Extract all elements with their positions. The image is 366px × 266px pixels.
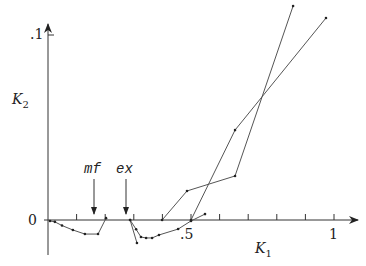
data-point	[292, 5, 295, 8]
data-point	[105, 217, 108, 220]
data-point	[325, 17, 328, 20]
data-series	[49, 5, 328, 245]
data-point	[186, 190, 189, 193]
data-point	[61, 224, 64, 227]
x-axis-label-sub: 1	[265, 248, 271, 259]
annotation-ex: ex	[116, 161, 133, 177]
data-point	[140, 236, 143, 239]
data-point	[136, 242, 139, 245]
data-point	[234, 129, 237, 132]
data-point	[158, 234, 161, 237]
series-line-curve-3	[130, 214, 205, 238]
y-axis-label-main: K	[12, 91, 22, 107]
data-point	[145, 237, 148, 240]
y-axis-label-sub: 2	[22, 99, 28, 110]
ex-arrowhead-icon	[123, 207, 129, 215]
x-tick-label-one: 1	[329, 226, 338, 242]
x-tick-label-half: .5	[180, 226, 193, 242]
series-line-curve-5	[191, 18, 326, 220]
mf-arrowhead-icon	[91, 207, 97, 215]
data-point	[190, 219, 193, 222]
y-tick-label-top: .1	[30, 26, 43, 42]
data-point	[129, 219, 132, 222]
annotation-mf: mf	[84, 161, 101, 177]
data-point	[135, 228, 138, 231]
series-line-curve-2	[130, 220, 137, 243]
data-point	[84, 233, 87, 236]
data-point	[72, 229, 75, 232]
y-axis-label: K2	[12, 91, 29, 110]
data-point	[204, 213, 207, 216]
x-axis-label: K1	[255, 240, 272, 259]
series-line-curve-4	[162, 6, 293, 220]
data-point	[54, 221, 57, 224]
data-point	[161, 219, 164, 222]
data-point	[234, 175, 237, 178]
data-point	[49, 220, 52, 223]
x-axis-label-main: K	[255, 240, 265, 256]
series-line-curve-1	[50, 218, 106, 234]
chart: .1 0 .5 1 K1 K2 mf ex	[0, 0, 366, 266]
data-point	[97, 233, 100, 236]
data-point	[151, 237, 154, 240]
y-tick-label-zero: 0	[28, 212, 37, 228]
